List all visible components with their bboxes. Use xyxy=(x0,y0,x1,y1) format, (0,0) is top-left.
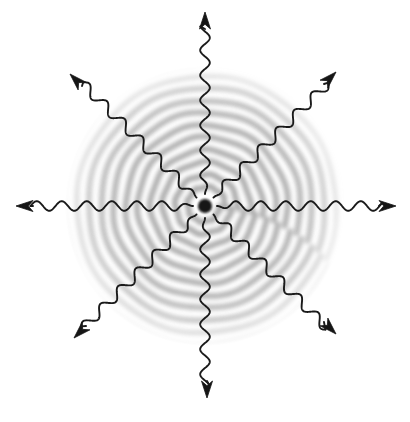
ray-down-connector xyxy=(207,381,208,384)
wave-diagram-figure xyxy=(0,0,410,422)
source-core-dot xyxy=(198,199,212,213)
point-source-core xyxy=(198,199,212,213)
wave-diagram-canvas xyxy=(0,0,410,422)
ray-up-left-connector xyxy=(82,82,83,86)
